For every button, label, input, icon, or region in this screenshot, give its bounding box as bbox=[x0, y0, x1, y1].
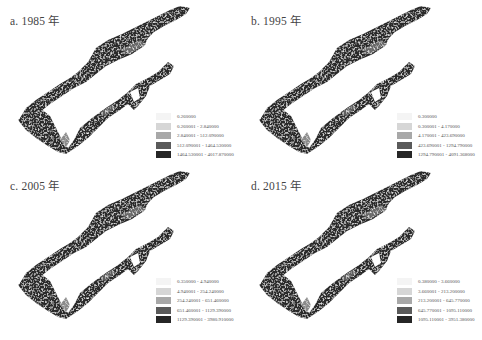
legend-label: 0.260000 bbox=[177, 114, 196, 119]
map-legend: 0.260000 0.260001 - 2.840000 2.840001 - … bbox=[156, 112, 234, 160]
legend-swatch bbox=[397, 297, 412, 304]
legend-item: 651.460001 - 1129.390000 bbox=[156, 306, 233, 316]
map-panel-1995: b. 1995 年 0.300000 0.300001 - 4.170000 4… bbox=[241, 0, 482, 165]
panel-title: d. 2015 年 bbox=[251, 177, 301, 193]
legend-swatch bbox=[397, 278, 412, 285]
legend-label: 0.300001 - 4.170000 bbox=[418, 124, 460, 129]
legend-item: 4.170001 - 423.690000 bbox=[397, 131, 475, 141]
legend-item: 0.380000 - 3.660000 bbox=[397, 277, 474, 287]
legend-swatch bbox=[156, 297, 171, 304]
legend-swatch bbox=[397, 307, 412, 314]
legend-swatch bbox=[397, 142, 412, 149]
legend-label: 512.090001 - 1464.530000 bbox=[177, 143, 231, 148]
map-panel-2005: c. 2005 年 0.350000 - 4.940000 4.940001 -… bbox=[0, 165, 241, 330]
legend-swatch bbox=[397, 151, 412, 158]
legend-item: 0.350000 - 4.940000 bbox=[156, 277, 233, 287]
legend-swatch bbox=[156, 123, 171, 130]
legend-item: 4.940001 - 254.240000 bbox=[156, 287, 233, 297]
legend-label: 254.240001 - 651.460000 bbox=[177, 298, 229, 303]
legend-swatch bbox=[156, 278, 171, 285]
legend-label: 2.840001 - 512.090000 bbox=[177, 133, 224, 138]
map-legend: 0.300000 0.300001 - 4.170000 4.170001 - … bbox=[397, 112, 475, 160]
legend-label: 1095.110001 - 3951.380000 bbox=[418, 317, 474, 322]
panel-title: b. 1995 年 bbox=[251, 12, 301, 28]
legend-swatch bbox=[397, 123, 412, 130]
legend-label: 651.460001 - 1129.390000 bbox=[177, 308, 231, 313]
legend-label: 0.300000 bbox=[418, 114, 437, 119]
legend-label: 1464.530001 - 4017.870000 bbox=[177, 152, 234, 157]
legend-swatch bbox=[156, 307, 171, 314]
legend-swatch bbox=[156, 288, 171, 295]
legend-item: 0.300000 bbox=[397, 112, 475, 122]
legend-item: 254.240001 - 651.460000 bbox=[156, 296, 233, 306]
legend-label: 0.350000 - 4.940000 bbox=[177, 279, 219, 284]
legend-item: 423.690001 - 1294.790000 bbox=[397, 141, 475, 151]
legend-item: 213.200001 - 645.770000 bbox=[397, 296, 474, 306]
legend-label: 1294.790001 - 4091.368000 bbox=[418, 152, 475, 157]
legend-label: 0.260001 - 2.840000 bbox=[177, 124, 219, 129]
map-panel-2015: d. 2015 年 0.380000 - 3.660000 3.660001 -… bbox=[241, 165, 482, 330]
legend-swatch bbox=[397, 316, 412, 323]
legend-item: 512.090001 - 1464.530000 bbox=[156, 141, 234, 151]
legend-label: 423.690001 - 1294.790000 bbox=[418, 143, 472, 148]
legend-swatch bbox=[397, 132, 412, 139]
map-panel-1985: a. 1985 年 0.260000 0.260001 - 2.840000 2… bbox=[0, 0, 241, 165]
legend-swatch bbox=[156, 151, 171, 158]
legend-label: 4.940001 - 254.240000 bbox=[177, 289, 224, 294]
legend-item: 3.660001 - 213.200000 bbox=[397, 287, 474, 297]
legend-swatch bbox=[156, 142, 171, 149]
legend-swatch bbox=[156, 113, 171, 120]
legend-swatch bbox=[397, 113, 412, 120]
legend-swatch bbox=[397, 288, 412, 295]
legend-swatch bbox=[156, 316, 171, 323]
legend-item: 1129.390001 - 3980.910000 bbox=[156, 315, 233, 325]
legend-item: 0.300001 - 4.170000 bbox=[397, 122, 475, 132]
legend-label: 1129.390001 - 3980.910000 bbox=[177, 317, 233, 322]
legend-label: 213.200001 - 645.770000 bbox=[418, 298, 470, 303]
legend-label: 0.380000 - 3.660000 bbox=[418, 279, 460, 284]
panel-title: a. 1985 年 bbox=[10, 12, 60, 28]
legend-item: 645.770001 - 1095.110000 bbox=[397, 306, 474, 316]
legend-item: 0.260000 bbox=[156, 112, 234, 122]
legend-label: 645.770001 - 1095.110000 bbox=[418, 308, 472, 313]
map-legend: 0.350000 - 4.940000 4.940001 - 254.24000… bbox=[156, 277, 233, 325]
legend-item: 0.260001 - 2.840000 bbox=[156, 122, 234, 132]
panel-title: c. 2005 年 bbox=[10, 177, 60, 193]
legend-label: 3.660001 - 213.200000 bbox=[418, 289, 465, 294]
legend-swatch bbox=[156, 132, 171, 139]
map-legend: 0.380000 - 3.660000 3.660001 - 213.20000… bbox=[397, 277, 474, 325]
legend-item: 1294.790001 - 4091.368000 bbox=[397, 150, 475, 160]
legend-item: 1095.110001 - 3951.380000 bbox=[397, 315, 474, 325]
legend-label: 4.170001 - 423.690000 bbox=[418, 133, 465, 138]
legend-item: 1464.530001 - 4017.870000 bbox=[156, 150, 234, 160]
legend-item: 2.840001 - 512.090000 bbox=[156, 131, 234, 141]
